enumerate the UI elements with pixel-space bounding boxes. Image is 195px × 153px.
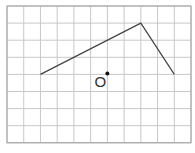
grid-diagram: O bbox=[0, 0, 195, 153]
center-point-label: O bbox=[94, 73, 106, 90]
